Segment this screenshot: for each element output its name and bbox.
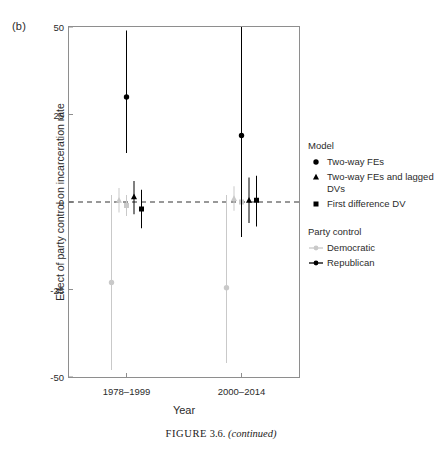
caption-prefix: FIGURE: [166, 428, 208, 439]
legend-item-party[interactable]: Democratic: [308, 242, 438, 254]
point-marker-square: [124, 203, 129, 208]
legend-label-party: Democratic: [324, 242, 375, 254]
point-marker-triangle: [246, 197, 252, 203]
legend-key-line-dot: [308, 242, 324, 254]
legend-dot: [314, 261, 319, 266]
point-marker-triangle: [231, 195, 237, 201]
y-tick-label: -50: [36, 372, 64, 383]
point-marker-triangle: [116, 197, 122, 203]
y-axis-tick-labels: 50250-25-50: [34, 0, 64, 457]
caption-suffix: (continued): [228, 428, 276, 439]
legend-key-line-dot: [308, 257, 324, 269]
y-tick-label: 25: [36, 109, 64, 120]
y-tick-label: -25: [36, 284, 64, 295]
point-marker-circle: [124, 94, 129, 99]
legend-spacer: [308, 213, 438, 226]
y-tick-label: 50: [36, 22, 64, 33]
legend-key-circle: [308, 156, 324, 168]
x-tick-label: 1978–1999: [103, 386, 151, 397]
point-marker-triangle: [313, 174, 319, 180]
legend-key-holder: [308, 171, 324, 183]
legend-key-holder: [308, 242, 324, 254]
legend-label-party: Republican: [324, 257, 375, 269]
plot-area: [68, 26, 300, 378]
point-marker-circle: [224, 285, 229, 290]
legend-title-model: Model: [308, 140, 438, 151]
x-tick-label: 2000–2014: [218, 386, 266, 397]
legend-label-model: First difference DV: [324, 198, 406, 210]
legend-key-holder: [308, 198, 324, 210]
legend-label-model: Two-way FEs and lagged DVs: [324, 171, 438, 195]
point-marker-square: [254, 198, 259, 203]
y-tick-label: 0: [36, 197, 64, 208]
legend: Model Two-way FEsTwo-way FEs and lagged …: [308, 140, 438, 272]
point-marker-circle: [313, 159, 318, 164]
panel-label: (b): [12, 20, 26, 32]
legend-key-holder: [308, 156, 324, 168]
point-marker-circle: [239, 133, 244, 138]
point-marker-circle: [109, 280, 114, 285]
series-group: [109, 195, 229, 370]
point-marker-square: [139, 207, 144, 212]
legend-key-square: [308, 198, 324, 210]
legend-title-party: Party control: [308, 226, 438, 237]
legend-label-model: Two-way FEs: [324, 156, 384, 168]
legend-item-party[interactable]: Republican: [308, 257, 438, 269]
legend-key-triangle: [308, 171, 324, 183]
x-axis-title: Year: [68, 404, 300, 416]
legend-party-items: DemocraticRepublican: [308, 242, 438, 269]
legend-item-model[interactable]: First difference DV: [308, 198, 438, 210]
point-marker-square: [314, 202, 319, 207]
figure-caption: FIGURE 3.6. (continued): [0, 428, 442, 439]
point-marker-triangle: [131, 193, 137, 199]
caption-number: 3.6.: [210, 428, 226, 439]
legend-model-items: Two-way FEsTwo-way FEs and lagged DVsFir…: [308, 156, 438, 210]
legend-item-model[interactable]: Two-way FEs: [308, 156, 438, 168]
legend-key-holder: [308, 257, 324, 269]
legend-dot: [314, 246, 319, 251]
plot-svg: [69, 27, 299, 377]
figure-container: (b) Effect of party control on incarcera…: [0, 0, 442, 457]
legend-item-model[interactable]: Two-way FEs and lagged DVs: [308, 171, 438, 195]
